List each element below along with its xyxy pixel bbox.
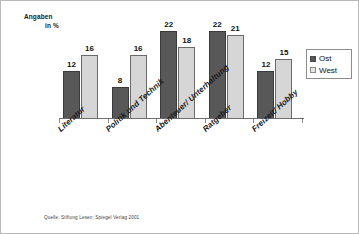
bar-value-label: 15	[275, 49, 292, 57]
legend-item-west: West	[310, 66, 348, 76]
legend-label-west: West	[319, 66, 337, 76]
bar-value-label: 18	[178, 37, 195, 45]
legend-swatch-west-icon	[310, 67, 316, 73]
bar-value-label: 16	[81, 45, 98, 53]
bar-value-label: 22	[209, 21, 226, 29]
source-note: Quelle: Stiftung Lesen; Spiegel Verlag 2…	[44, 215, 139, 220]
y-axis-caption-line1: Angaben	[23, 12, 93, 21]
chart-image: Angaben in % Ost West Quelle: Stiftung L…	[0, 0, 359, 234]
chart-legend: Ost West	[306, 49, 352, 79]
legend-item-ost: Ost	[310, 54, 348, 64]
bar-value-label: 12	[63, 61, 80, 69]
bar-value-label: 12	[257, 61, 274, 69]
bar-value-label: 16	[130, 45, 147, 53]
bar-value-label: 22	[160, 21, 177, 29]
legend-swatch-ost-icon	[310, 56, 316, 62]
x-axis-tick	[302, 119, 303, 123]
legend-label-ost: Ost	[319, 54, 331, 64]
bar-value-label: 8	[112, 77, 129, 85]
bar-value-label: 21	[227, 25, 244, 33]
